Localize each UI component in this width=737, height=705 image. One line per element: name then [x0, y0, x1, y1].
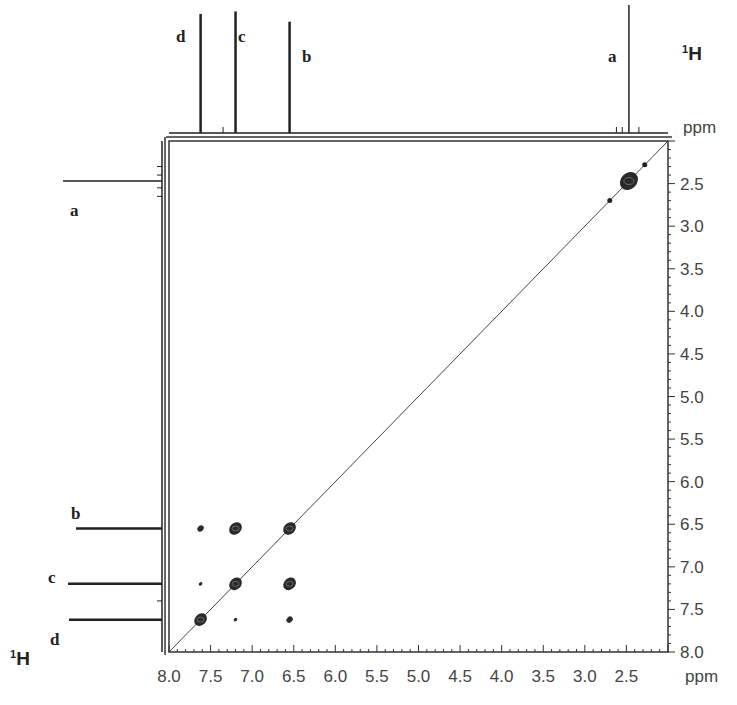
left-label-c: c [48, 568, 56, 587]
svg-text:6.0: 6.0 [680, 473, 704, 492]
x-axis-ticks [169, 645, 668, 652]
svg-text:2.5: 2.5 [680, 175, 704, 194]
left-label-a: a [70, 201, 79, 220]
svg-text:5.0: 5.0 [680, 388, 704, 407]
svg-text:4.0: 4.0 [490, 667, 514, 686]
svg-text:5.5: 5.5 [680, 430, 704, 449]
left-nucleus-label: 1H [10, 648, 30, 669]
left-label-b: b [71, 504, 80, 523]
svg-text:5.0: 5.0 [407, 667, 431, 686]
svg-text:7.0: 7.0 [680, 558, 704, 577]
svg-text:6.5: 6.5 [680, 515, 704, 534]
svg-text:7.5: 7.5 [680, 600, 704, 619]
top-label-d: d [176, 27, 186, 46]
svg-text:4.5: 4.5 [448, 667, 472, 686]
left-label-d: d [50, 630, 60, 649]
top-label-b: b [302, 47, 311, 66]
svg-text:4.0: 4.0 [680, 302, 704, 321]
top-label-a: a [608, 47, 617, 66]
svg-text:3.0: 3.0 [573, 667, 597, 686]
svg-text:3.0: 3.0 [680, 217, 704, 236]
svg-text:7.5: 7.5 [199, 667, 223, 686]
top-nucleus-label: 1H [682, 43, 702, 64]
svg-text:6.0: 6.0 [324, 667, 348, 686]
svg-text:4.5: 4.5 [680, 345, 704, 364]
svg-text:3.5: 3.5 [531, 667, 555, 686]
svg-text:3.5: 3.5 [680, 260, 704, 279]
svg-text:7.0: 7.0 [240, 667, 264, 686]
y-axis-ticks [668, 141, 675, 652]
diagonal-line [169, 141, 668, 652]
svg-text:8.0: 8.0 [680, 643, 704, 662]
y-axis-tick-labels: 2.53.03.54.04.55.05.56.06.57.07.58.0 [680, 175, 704, 662]
y-axis-unit: ppm [683, 118, 716, 137]
top-projection-spectrum [169, 5, 668, 133]
cosy-chart: 8.07.57.06.56.05.55.04.54.03.53.02.5 2.5… [0, 0, 737, 705]
svg-text:8.0: 8.0 [157, 667, 181, 686]
svg-text:2.5: 2.5 [615, 667, 639, 686]
top-label-c: c [238, 27, 246, 46]
x-axis-unit: ppm [685, 667, 718, 686]
svg-text:5.5: 5.5 [365, 667, 389, 686]
x-axis-tick-labels: 8.07.57.06.56.05.55.04.54.03.53.02.5 [157, 667, 638, 686]
svg-text:6.5: 6.5 [282, 667, 306, 686]
